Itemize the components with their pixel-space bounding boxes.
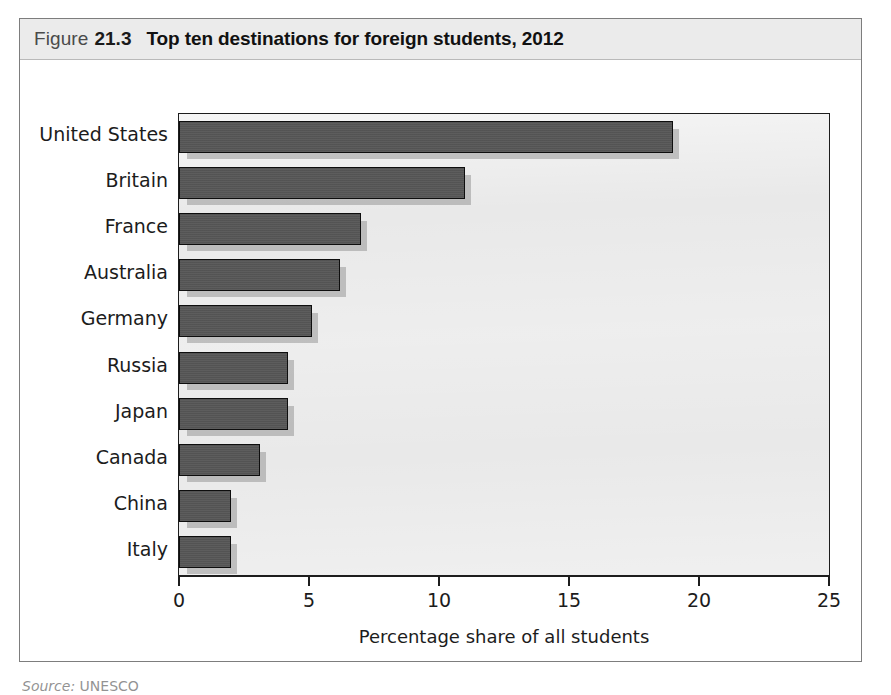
bar-row [179,160,829,206]
bar [179,305,312,337]
bar-texture [180,306,311,336]
plot-area [178,113,830,576]
category-label: France [18,215,168,237]
bar [179,259,340,291]
x-axis-title: Percentage share of all students [178,626,830,647]
bar-texture [180,214,360,244]
bar-texture [180,122,672,152]
x-axis-tick [308,575,310,586]
x-axis-tick-label: 25 [817,589,841,611]
bar-texture [180,353,287,383]
bar-row [179,114,829,160]
bar [179,352,288,384]
x-axis-line [178,575,830,577]
bar [179,444,260,476]
source-prefix: Source: [22,678,75,694]
bar [179,536,231,568]
bar [179,121,673,153]
category-label: Germany [18,307,168,329]
bar-row [179,252,829,298]
bar-row [179,206,829,252]
category-label: Britain [18,169,168,191]
bar-row [179,391,829,437]
source-text: UNESCO [80,678,139,694]
bar-row [179,298,829,344]
bar [179,490,231,522]
bar-texture [180,260,339,290]
category-label: Russia [18,354,168,376]
page-title: Top ten destinations for foreign student… [146,28,563,50]
source-note: Source: UNESCO [22,678,139,694]
x-axis-tick-label: 10 [427,589,451,611]
bar-texture [180,491,230,521]
x-axis-tick [828,575,830,586]
bar-row [179,437,829,483]
figure-frame: Figure 21.3 Top ten destinations for for… [19,18,862,662]
x-axis-tick [438,575,440,586]
x-axis-tick-label: 20 [687,589,711,611]
x-axis-tick [568,575,570,586]
figure-number: 21.3 [94,28,131,50]
figure-label: Figure [34,28,88,50]
y-axis-category-labels: United StatesBritainFranceAustraliaGerma… [20,113,168,574]
bar [179,398,288,430]
x-axis-tick [698,575,700,586]
x-axis-tick-label: 0 [173,589,185,611]
bar-row [179,529,829,575]
bar-texture [180,399,287,429]
chart-canvas: United StatesBritainFranceAustraliaGerma… [20,60,861,661]
bar-texture [180,537,230,567]
x-axis-tick-label: 15 [557,589,581,611]
bar-row [179,483,829,529]
category-label: United States [18,123,168,145]
bar [179,213,361,245]
bar-row [179,345,829,391]
category-label: Canada [18,446,168,468]
category-label: Japan [18,400,168,422]
category-label: Italy [18,538,168,560]
bar [179,167,465,199]
bar-texture [180,168,464,198]
x-axis-tick [178,575,180,586]
category-label: China [18,492,168,514]
bar-texture [180,445,259,475]
category-label: Australia [18,261,168,283]
figure-title-band: Figure 21.3 Top ten destinations for for… [20,19,861,60]
x-axis-tick-label: 5 [303,589,315,611]
